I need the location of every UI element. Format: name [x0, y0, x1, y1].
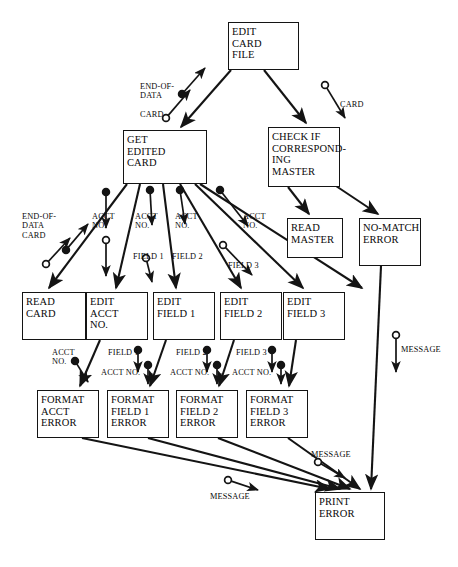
couple-marker-control-c-msg-mid	[315, 459, 322, 466]
couple-line-c-card-left	[48, 238, 70, 262]
module-box-no-match-error: NO-MATCH ERROR	[359, 218, 421, 266]
couple-line-c-msg-left	[231, 481, 258, 490]
edge-label-lbl-field-2-fmt: FIELD 2	[176, 348, 207, 357]
module-box-read-card: READ CARD	[22, 292, 86, 340]
edge-label-lbl-message-left: MESSAGE	[210, 492, 250, 501]
call-arrow-e-nme-pe	[371, 266, 381, 489]
edge-label-lbl-field-3-top: FIELD 3	[228, 261, 259, 270]
call-arrow-e-ecf-chk	[264, 70, 306, 123]
couple-marker-control-c-card-right	[322, 82, 329, 89]
couple-marker-data-c-acct-4	[217, 187, 224, 194]
edge-label-lbl-acct-no-1: ACCT NO.	[92, 212, 115, 231]
couple-marker-data-c-acct-3	[177, 187, 184, 194]
call-arrow-e-ff3-pe	[288, 438, 360, 489]
module-box-edit-field-3: EDIT FIELD 3	[283, 292, 345, 340]
call-arrow-e-gec-ef1	[163, 184, 176, 288]
module-box-check-master: CHECK IF CORRESPOND- ING MASTER	[268, 127, 340, 187]
call-arrow-e-ef3-ff3	[289, 340, 296, 386]
couple-line-c-msg-mid	[321, 464, 345, 478]
edge-label-lbl-acct-no-fmt-2: ACCT NO.	[170, 368, 209, 377]
call-arrow-e-chk-rm	[288, 187, 309, 214]
call-arrow-e-ff2-pe	[218, 438, 350, 489]
couple-marker-control-c-field-1	[103, 237, 110, 244]
module-box-get-edited-card: GET EDITED CARD	[123, 130, 207, 184]
couple-marker-control-c-msg-right	[393, 332, 400, 339]
couple-line-c-field-2	[147, 261, 152, 282]
call-arrow-e-ff1-pe	[148, 438, 340, 489]
edge-label-lbl-message-mid: MESSAGE	[311, 450, 351, 459]
edge-label-lbl-acct-no-fmt-1: ACCT NO.	[101, 368, 140, 377]
module-box-edit-acct-no: EDIT ACCT NO.	[86, 292, 148, 340]
couple-marker-data-c-end-of-data	[179, 91, 186, 98]
edge-label-lbl-message-right: MESSAGE	[401, 345, 441, 354]
couple-marker-control-c-msg-left	[225, 477, 232, 484]
module-box-format-acct-err: FORMAT ACCT ERROR	[37, 390, 99, 438]
couple-marker-data-c-acct-fmt-1	[145, 362, 152, 369]
edge-label-lbl-acct-no-4: ACCT NO.	[243, 212, 266, 231]
edge-label-lbl-end-of-data-card-left: END-OF- DATA CARD	[22, 212, 56, 240]
call-arrow-e-ef1-ff1	[150, 340, 166, 386]
couple-line-c-eod-left	[68, 224, 88, 247]
couple-marker-data-c-eod-left	[63, 247, 70, 254]
edge-label-lbl-field-3-fmt: FIELD 3	[236, 348, 267, 357]
module-box-edit-field-2: EDIT FIELD 2	[220, 292, 282, 340]
module-box-edit-card-file: EDIT CARD FILE	[228, 22, 299, 70]
couple-marker-data-c-acct-fmt-2	[214, 362, 221, 369]
couple-marker-control-c-field-3	[220, 242, 227, 249]
call-arrow-e-ecf-gec	[181, 70, 231, 127]
couple-marker-control-c-card-left	[43, 261, 50, 268]
edge-label-lbl-field-1-top: FIELD 1	[133, 252, 164, 261]
couple-marker-data-c-acct-fmt-3	[278, 362, 285, 369]
edge-label-lbl-field-2-top: FIELD 2	[172, 252, 203, 261]
edge-label-lbl-end-of-data-card-top: END-OF- DATA CARD	[140, 82, 174, 120]
couple-line-c-acct-fmt	[77, 364, 88, 382]
edge-layer	[0, 0, 458, 567]
call-arrow-e-gec-ef2	[180, 184, 241, 288]
call-arrow-e-ean-fae	[80, 340, 100, 386]
module-box-edit-field-1: EDIT FIELD 1	[153, 292, 215, 340]
edge-label-lbl-card-right: CARD	[340, 100, 364, 109]
module-box-format-f2-err: FORMAT FIELD 2 ERROR	[176, 390, 238, 438]
edge-label-lbl-acct-no-fmt: ACCT NO.	[52, 348, 75, 367]
module-box-format-f3-err: FORMAT FIELD 3 ERROR	[246, 390, 308, 438]
call-arrow-e-gec-rc	[49, 184, 127, 288]
module-box-read-master: READ MASTER	[287, 218, 343, 258]
edge-label-lbl-acct-no-2: ACCT NO.	[135, 212, 158, 231]
module-box-print-error: PRINT ERROR	[315, 492, 385, 540]
call-arrow-e-gec-ean	[116, 184, 140, 288]
edge-label-lbl-acct-no-3: ACCT NO.	[175, 212, 198, 231]
call-arrow-e-ef2-ff2	[219, 340, 234, 386]
couple-marker-data-c-acct-1	[103, 189, 110, 196]
module-box-format-f1-err: FORMAT FIELD 1 ERROR	[107, 390, 169, 438]
call-arrow-e-chk-nme	[336, 186, 378, 214]
call-arrow-e-fae-pe	[82, 438, 330, 489]
edge-label-lbl-acct-no-fmt-3: ACCT NO.	[232, 368, 271, 377]
structure-chart-diagram: EDIT CARD FILEGET EDITED CARDCHECK IF CO…	[0, 0, 458, 567]
couple-marker-data-c-acct-2	[147, 187, 154, 194]
couple-marker-data-c-f3-fmt	[269, 347, 276, 354]
edge-label-lbl-field-1-fmt: FIELD 1	[108, 348, 139, 357]
couple-line-c-end-of-data	[184, 68, 205, 91]
